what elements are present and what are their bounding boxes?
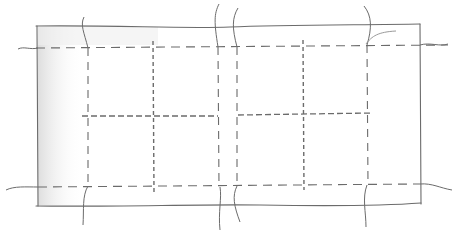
sketch-drawing	[0, 0, 461, 237]
dashed-fold-lines	[36, 45, 448, 187]
outer-sheet-border	[36, 24, 421, 206]
sketch-canvas	[0, 0, 461, 237]
top-shading	[38, 27, 158, 45]
middle-dashed-lines	[82, 113, 372, 116]
left-shading	[38, 27, 83, 205]
